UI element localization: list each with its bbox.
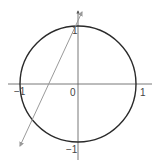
label-y-neg-one: −1 [66,144,78,155]
label-origin: 0 [70,87,76,98]
label-x-pos-one: 1 [140,87,146,98]
unit-circle-diagram: −1 0 1 1 −1 [0,0,157,166]
label-y-pos-one: 1 [72,25,78,36]
label-x-neg-one: −1 [14,86,26,97]
